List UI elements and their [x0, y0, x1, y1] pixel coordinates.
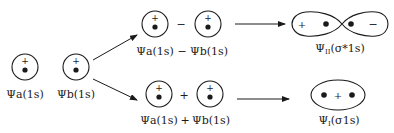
nucleus-dot — [321, 92, 327, 98]
label-suffix: (σ1s) — [331, 114, 360, 127]
psi-symbol: Ψ — [318, 114, 328, 127]
atomic-orbital-b: + Ψb(1s) — [57, 54, 95, 101]
nucleus-dot — [156, 94, 161, 99]
addition-combination: + + + Ψa(1s) + Ψb(1s) — [140, 81, 230, 127]
nucleus-dot — [22, 67, 27, 72]
nucleus-dot — [205, 24, 210, 29]
sign-plus: + — [204, 13, 212, 23]
sign-plus: + — [72, 56, 80, 66]
orbital-label: Ψa(1s) — [6, 88, 43, 101]
sign-plus: + — [151, 13, 159, 23]
sign-plus: + — [298, 19, 306, 30]
nucleus-dot — [323, 21, 329, 27]
label-suffix: (σ*1s) — [330, 42, 364, 55]
bonding-label: ΨI(σ1s) — [318, 114, 359, 128]
nucleus-dot — [152, 24, 157, 29]
nucleus-dot — [207, 94, 212, 99]
operator-minus: − — [176, 18, 185, 31]
arrow-to-subtraction — [93, 35, 137, 60]
arrow-to-addition — [93, 79, 137, 100]
operator-plus: + — [179, 89, 188, 102]
antibonding-label: ΨII(σ*1s) — [315, 42, 364, 56]
label-left: Ψa(1s) — [136, 45, 173, 58]
antibonding-orbital: + − ΨII(σ*1s) — [292, 12, 388, 56]
nucleus-dot — [73, 67, 78, 72]
label-right: Ψb(1s) — [192, 114, 230, 127]
bonding-orbital: + ΨI(σ1s) — [311, 80, 365, 128]
sign-plus: + — [155, 83, 163, 93]
nucleus-dot — [348, 21, 354, 27]
label-operator: + — [180, 114, 189, 127]
sign-plus: + — [21, 56, 29, 66]
label-right: Ψb(1s) — [190, 45, 228, 58]
atomic-orbital-a: + Ψa(1s) — [6, 54, 43, 101]
label-left: Ψa(1s) — [140, 114, 177, 127]
psi-symbol: Ψ — [315, 42, 325, 55]
mo-diagram: + Ψa(1s) + Ψb(1s) + − + Ψa(1s) − Ψb(1s) … — [0, 0, 394, 133]
nucleus-dot — [349, 92, 355, 98]
orbital-label: Ψb(1s) — [57, 88, 95, 101]
subtraction-combination: + − + Ψa(1s) − Ψb(1s) — [136, 11, 228, 58]
sign-plus: + — [334, 90, 342, 101]
sign-minus: − — [368, 18, 377, 31]
label-operator: − — [177, 45, 186, 58]
sign-plus: + — [206, 83, 214, 93]
